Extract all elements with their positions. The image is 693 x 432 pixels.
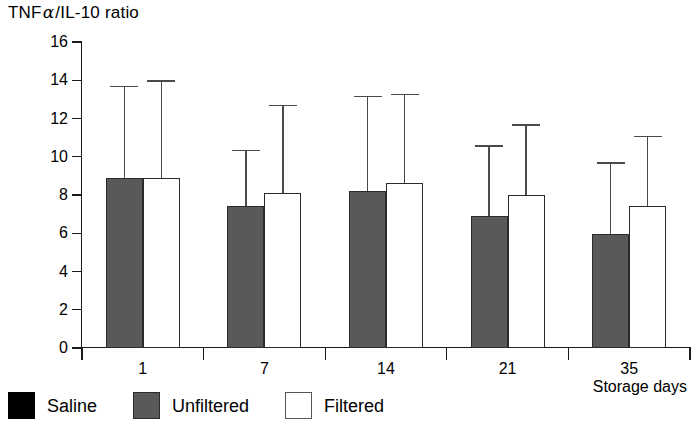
legend-swatch-saline: [8, 392, 35, 419]
alpha-symbol: α: [42, 2, 56, 22]
y-axis-label: 14: [4, 72, 68, 88]
bar-filtered-day-1: [143, 178, 180, 348]
bar-filtered-day-21: [508, 195, 545, 348]
x-axis-tick-label: 21: [499, 360, 517, 378]
y-axis-label: 10: [4, 149, 68, 165]
error-bar-cap: [391, 94, 419, 95]
x-axis-tick: [446, 348, 447, 360]
y-axis-tick: [72, 194, 82, 195]
y-axis-label: 4: [4, 264, 68, 280]
x-axis-tick-label: 7: [260, 360, 269, 378]
y-axis-label: 16: [4, 34, 68, 50]
y-axis-label: 2: [4, 302, 68, 318]
bar-unfiltered-day-14: [349, 191, 386, 348]
legend-item-filtered: Filtered: [285, 392, 384, 419]
legend-label-saline: Saline: [47, 396, 97, 416]
y-axis-tick: [72, 80, 82, 81]
y-axis-tick: [72, 309, 82, 310]
legend-label-filtered: Filtered: [324, 396, 384, 416]
legend-swatch-unfiltered: [133, 392, 160, 419]
bar-unfiltered-day-1: [106, 178, 143, 348]
error-bar-cap: [147, 80, 175, 81]
x-axis-tick-label: 14: [377, 360, 395, 378]
legend-label-unfiltered: Unfiltered: [172, 396, 249, 416]
y-axis-tick: [72, 233, 82, 234]
error-bar-stem: [161, 80, 162, 178]
y-axis-tick: [72, 41, 82, 42]
error-bar-stem: [488, 145, 489, 216]
chart-title-pre: TNF: [8, 3, 42, 22]
chart-figure: TNFα/IL-10 ratio 0246810121416 17142135 …: [0, 0, 693, 432]
chart-title-post: /IL-10 ratio: [55, 3, 139, 22]
y-axis-label: 8: [4, 187, 68, 203]
bar-filtered-day-7: [264, 193, 301, 348]
error-bar-stem: [525, 124, 526, 195]
chart-title: TNFα/IL-10 ratio: [8, 2, 139, 23]
error-bar-stem: [124, 86, 125, 178]
error-bar-cap: [512, 124, 540, 125]
error-bar-stem: [610, 162, 611, 234]
error-bar-cap: [232, 150, 260, 151]
bar-filtered-day-14: [386, 183, 423, 348]
plot-area: [82, 42, 690, 348]
y-axis-label: 12: [4, 111, 68, 127]
legend-item-saline: Saline: [8, 392, 97, 419]
y-axis-label: 6: [4, 225, 68, 241]
error-bar-stem: [245, 150, 246, 205]
y-axis-tick: [72, 156, 82, 157]
error-bar-cap: [110, 86, 138, 87]
bar-filtered-day-35: [629, 206, 666, 348]
x-axis-tick: [203, 348, 204, 360]
error-bar-stem: [647, 136, 648, 207]
bar-unfiltered-day-35: [592, 234, 629, 348]
y-axis-label: 0: [4, 340, 68, 356]
y-axis-tick: [72, 271, 82, 272]
y-axis-tick: [72, 118, 82, 119]
legend-swatch-filtered: [285, 392, 312, 419]
error-bar-stem: [367, 96, 368, 192]
x-axis-tick: [325, 348, 326, 360]
chart-legend: Saline Unfiltered Filtered: [8, 392, 384, 419]
legend-item-unfiltered: Unfiltered: [133, 392, 249, 419]
bar-unfiltered-day-7: [227, 206, 264, 348]
x-axis-tick: [689, 348, 690, 360]
error-bar-stem: [282, 105, 283, 193]
x-axis-title: Storage days: [593, 378, 687, 396]
x-axis-tick: [568, 348, 569, 360]
error-bar-cap: [634, 136, 662, 137]
x-axis-tick-label: 1: [138, 360, 147, 378]
x-axis-tick: [81, 348, 82, 360]
x-axis-tick-label: 35: [620, 360, 638, 378]
bar-unfiltered-day-21: [471, 216, 508, 348]
error-bar-stem: [404, 94, 405, 183]
error-bar-cap: [269, 105, 297, 106]
error-bar-cap: [354, 96, 382, 97]
error-bar-cap: [475, 145, 503, 146]
error-bar-cap: [597, 162, 625, 163]
